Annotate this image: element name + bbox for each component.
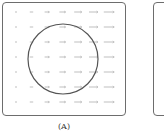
circle-contour <box>28 24 98 94</box>
panel-a-label: (A) <box>0 122 128 131</box>
vector-field-arrows <box>15 11 114 103</box>
panel-b-frame <box>153 2 164 116</box>
vector-field-diagram <box>0 0 164 138</box>
